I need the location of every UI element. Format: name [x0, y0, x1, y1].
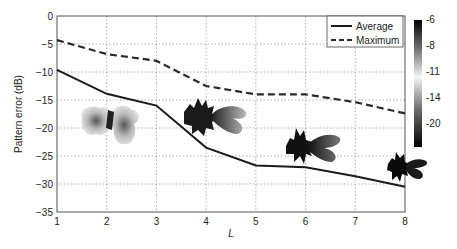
series-maximum-line: [57, 40, 405, 113]
x-axis-label: L: [228, 228, 234, 239]
x-tick-label: 8: [402, 216, 408, 227]
legend-average-label: Average: [356, 21, 394, 32]
colorbar: -6 -8 -11 -14 -20: [414, 14, 441, 147]
pattern-image-4: [387, 152, 427, 182]
y-tick-label: −15: [36, 95, 53, 106]
y-tick-label: −10: [36, 67, 53, 78]
x-tick-label: 6: [303, 216, 309, 227]
legend: Average Maximum: [327, 16, 403, 47]
y-tick-label: 0: [47, 11, 53, 22]
colorbar-tick: -6: [426, 14, 435, 25]
x-tick-label: 4: [203, 216, 209, 227]
y-tick-label: −30: [36, 179, 53, 190]
y-tick-label: −35: [36, 207, 53, 218]
y-tick-label: −20: [36, 123, 53, 134]
y-tick-label: −5: [42, 39, 54, 50]
colorbar-tick: -8: [426, 40, 435, 51]
x-tick-label: 7: [353, 216, 359, 227]
pattern-image-2: [184, 98, 246, 136]
pattern-image-3: [286, 128, 340, 164]
y-axis-ticks: 0−5−10−15−20−25−30−35: [36, 11, 53, 218]
y-axis-label: Pattern error (dB): [13, 75, 24, 153]
legend-maximum-label: Maximum: [356, 35, 399, 46]
colorbar-tick: -20: [426, 118, 441, 129]
x-tick-label: 5: [253, 216, 259, 227]
colorbar-tick: -11: [426, 66, 440, 77]
colorbar-gradient: [414, 20, 422, 147]
pattern-error-chart: 0−5−10−15−20−25−30−35 12345678 Average M…: [0, 0, 457, 249]
x-tick-label: 2: [104, 216, 110, 227]
colorbar-tick: -14: [426, 92, 441, 103]
x-tick-label: 3: [154, 216, 160, 227]
pattern-image-1: [81, 106, 139, 145]
x-tick-label: 1: [54, 216, 60, 227]
y-tick-label: −25: [36, 151, 53, 162]
x-axis-ticks: 12345678: [54, 216, 408, 227]
